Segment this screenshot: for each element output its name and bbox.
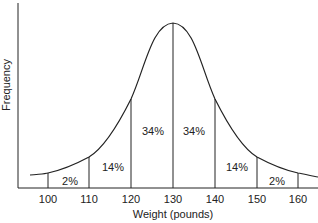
x-tick-label: 130 (164, 193, 182, 205)
bell-curve (30, 23, 318, 177)
region-label: 2% (62, 175, 78, 187)
x-tick-label: 160 (289, 193, 307, 205)
region-label: 34% (142, 125, 164, 137)
x-tick-label: 140 (206, 193, 224, 205)
region-label: 2% (269, 175, 285, 187)
x-tick-label: 120 (122, 193, 140, 205)
region-label: 14% (102, 161, 124, 173)
x-tick-label: 110 (80, 193, 98, 205)
normal-distribution-chart: 2% 14% 34% 34% 14% 2% 100 110 120 130 14… (0, 0, 318, 223)
x-tick-label: 150 (248, 193, 266, 205)
region-label: 14% (226, 161, 248, 173)
x-axis-title: Weight (pounds) (133, 208, 214, 220)
region-label: 34% (183, 125, 205, 137)
y-axis-title: Frequency (0, 59, 12, 111)
x-tick-label: 100 (39, 193, 57, 205)
